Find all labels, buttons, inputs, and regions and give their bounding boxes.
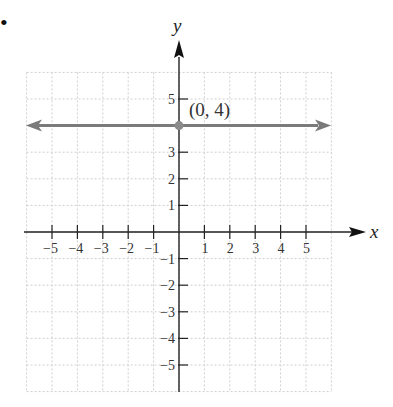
x-tick-label: 4 — [278, 241, 285, 256]
x-axis-label: x — [369, 221, 379, 242]
y-tick-label: −2 — [160, 278, 175, 293]
y-tick-label: −1 — [160, 252, 175, 267]
y-axis-arrow-icon — [174, 40, 184, 58]
point-marker — [175, 121, 184, 130]
x-tick-label: −3 — [94, 241, 109, 256]
x-tick-label: −4 — [68, 241, 83, 256]
y-tick-label: −3 — [160, 305, 175, 320]
x-tick-label: −2 — [119, 241, 134, 256]
x-tick-label: −1 — [145, 241, 160, 256]
y-axis-label: y — [171, 15, 182, 36]
y-tick-label: 3 — [168, 145, 175, 160]
x-tick-label: 3 — [252, 241, 259, 256]
y-tick-label: −5 — [160, 358, 175, 373]
x-tick-label: 1 — [201, 241, 208, 256]
axes: xy — [24, 15, 379, 392]
x-tick-label: 5 — [303, 241, 310, 256]
x-tick-label: −5 — [43, 241, 58, 256]
coordinate-plane: xy −5−4−3−2−112345−5−4−3−2−11235 (0, 4) — [0, 0, 393, 407]
y-tick-label: −4 — [160, 331, 175, 346]
y-tick-label: 1 — [168, 198, 175, 213]
x-tick-label: 2 — [227, 241, 234, 256]
point-label: (0, 4) — [189, 99, 230, 121]
y-tick-label: 5 — [168, 92, 175, 107]
y-tick-label: 2 — [168, 172, 175, 187]
